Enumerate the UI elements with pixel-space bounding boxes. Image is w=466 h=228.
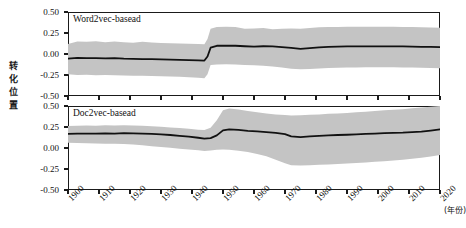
- x-tick-label: 2020: [438, 183, 458, 203]
- x-tick-mark: [408, 96, 409, 100]
- y-tick-label: -0.25: [29, 165, 59, 174]
- x-tick-mark: [439, 96, 440, 100]
- x-tick-mark: [191, 96, 192, 100]
- y-axis-title-char-3: 位: [9, 86, 18, 99]
- x-tick-mark: [67, 96, 68, 100]
- y-axis-title: 转 化 位 置: [4, 60, 22, 112]
- x-tick-mark: [253, 96, 254, 100]
- panel-label-doc2vec: Doc2vec-basead: [73, 108, 136, 118]
- y-axis-title-char-4: 置: [9, 99, 18, 112]
- plot-area-word2vec: [68, 12, 440, 96]
- y-tick-mark: [64, 147, 68, 148]
- x-tick-mark: [98, 96, 99, 100]
- x-tick-mark: [160, 96, 161, 100]
- x-tick-mark: [315, 96, 316, 100]
- y-tick-mark: [64, 32, 68, 33]
- y-tick-mark: [64, 11, 68, 12]
- y-tick-mark: [64, 126, 68, 127]
- y-tick-mark: [64, 168, 68, 169]
- y-tick-label: 0.25: [29, 29, 59, 38]
- y-tick-label: -0.50: [29, 92, 59, 101]
- y-tick-mark: [64, 105, 68, 106]
- x-tick-mark: [129, 96, 130, 100]
- y-tick-label: 0.50: [29, 102, 59, 111]
- y-tick-label: 0.50: [29, 8, 59, 17]
- x-tick-mark: [346, 96, 347, 100]
- y-tick-label: 0.00: [29, 144, 59, 153]
- plot-area-doc2vec: [68, 106, 440, 190]
- y-tick-mark: [64, 53, 68, 54]
- y-tick-label: 0.25: [29, 123, 59, 132]
- chart-panel-word2vec: Word2vec-basead: [68, 12, 440, 96]
- y-tick-mark: [64, 74, 68, 75]
- x-tick-mark: [222, 96, 223, 100]
- y-axis-title-char-2: 化: [9, 73, 18, 86]
- y-tick-label: -0.50: [29, 186, 59, 195]
- panel-label-word2vec: Word2vec-basead: [73, 14, 141, 24]
- chart-panel-doc2vec: Doc2vec-basead: [68, 106, 440, 190]
- x-axis-unit-label: (年份): [444, 204, 466, 215]
- y-axis-title-char-1: 转: [9, 60, 18, 73]
- x-tick-mark: [284, 96, 285, 100]
- x-tick-mark: [377, 96, 378, 100]
- y-tick-label: 0.00: [29, 50, 59, 59]
- y-tick-label: -0.25: [29, 71, 59, 80]
- confidence-band: [68, 27, 440, 78]
